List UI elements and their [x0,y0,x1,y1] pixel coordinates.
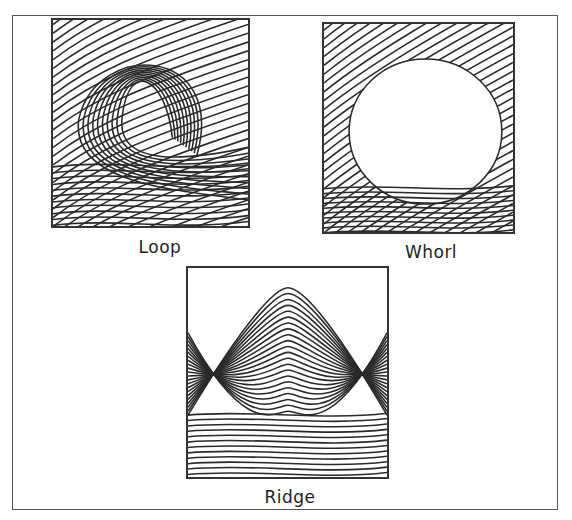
whorl-fingerprint-drawing [324,24,513,232]
loop-fingerprint-panel [51,18,250,228]
ridge-fingerprint-drawing [188,268,387,477]
ridge-label: Ridge [240,487,340,507]
loop-label: Loop [110,237,210,257]
ridge-fingerprint-panel [186,266,389,479]
whorl-fingerprint-panel [322,22,515,234]
loop-fingerprint-drawing [53,20,248,226]
whorl-label: Whorl [381,242,481,262]
